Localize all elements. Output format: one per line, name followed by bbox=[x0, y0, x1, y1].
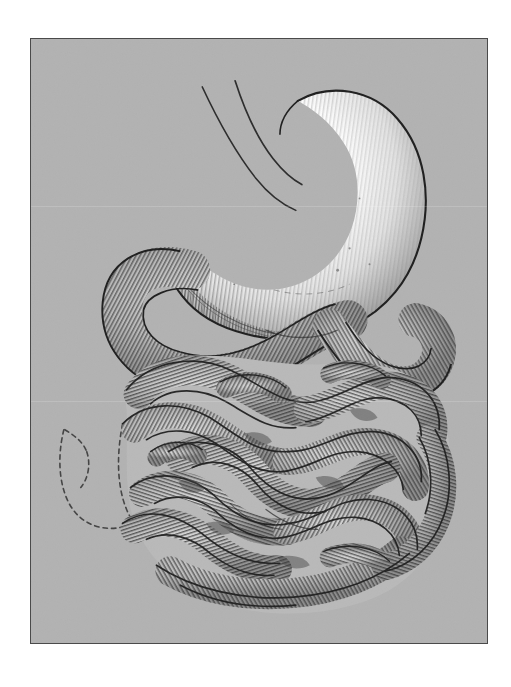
esophagus bbox=[202, 81, 302, 211]
small-intestine-mass bbox=[123, 356, 450, 614]
anatomy-figure bbox=[31, 39, 487, 643]
screenshot-page bbox=[0, 0, 511, 687]
illustration-plate bbox=[30, 38, 488, 644]
